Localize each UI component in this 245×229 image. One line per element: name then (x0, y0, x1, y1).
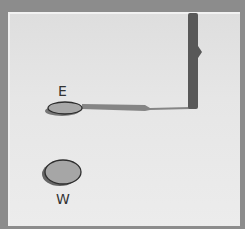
stick-shadow (82, 104, 193, 111)
diagram-scene (0, 0, 245, 229)
label-east: E (58, 84, 67, 98)
stick (188, 13, 198, 109)
stick-knot (198, 46, 202, 58)
w-stone (45, 160, 81, 184)
e-stone (48, 102, 82, 114)
label-west: W (56, 192, 70, 206)
